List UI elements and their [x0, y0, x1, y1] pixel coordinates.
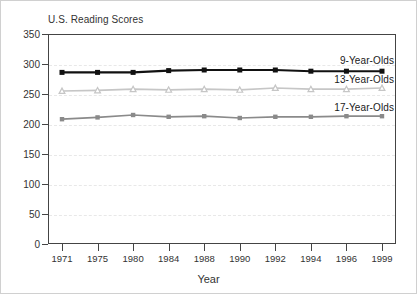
y-axis-tick: [42, 184, 48, 185]
y-axis-label: 50: [6, 209, 40, 220]
y-axis-label: 0: [6, 239, 40, 250]
x-axis-label: 1994: [300, 253, 321, 264]
gridline: [49, 215, 395, 216]
chart-container: U.S. Reading Scores 05010015020025030035…: [0, 0, 417, 294]
y-axis-tick: [42, 124, 48, 125]
x-axis-tick: [62, 244, 63, 251]
y-axis-label: 200: [6, 119, 40, 130]
chart-title: U.S. Reading Scores: [48, 14, 143, 25]
x-axis-label: 1984: [158, 253, 179, 264]
y-axis-tick: [42, 34, 48, 35]
x-axis-tick: [311, 244, 312, 251]
x-axis-title: Year: [1, 273, 416, 285]
x-axis-tick: [169, 244, 170, 251]
x-axis-tick: [275, 244, 276, 251]
x-axis-label: 1988: [194, 253, 215, 264]
gridline: [49, 95, 395, 96]
y-axis-tick: [42, 244, 48, 245]
gridline: [49, 125, 395, 126]
x-axis-tick: [240, 244, 241, 251]
gridlines: [49, 35, 395, 243]
y-axis-label: 100: [6, 179, 40, 190]
y-axis-tick: [42, 154, 48, 155]
x-axis-tick: [346, 244, 347, 251]
gridline: [49, 185, 395, 186]
y-axis-label: 250: [6, 89, 40, 100]
x-axis-label: 1975: [87, 253, 108, 264]
y-axis-label: 350: [6, 29, 40, 40]
y-axis-tick: [42, 94, 48, 95]
x-axis-label: 1992: [265, 253, 286, 264]
x-axis-label: 1971: [51, 253, 72, 264]
y-axis-label: 150: [6, 149, 40, 160]
y-axis-label: 300: [6, 59, 40, 70]
x-axis-tick: [382, 244, 383, 251]
x-axis-label: 1990: [229, 253, 250, 264]
y-axis-tick: [42, 214, 48, 215]
x-axis-tick: [204, 244, 205, 251]
series-label-3: 17-Year-Olds: [334, 102, 394, 113]
y-axis-tick: [42, 64, 48, 65]
x-axis-label: 1996: [336, 253, 357, 264]
series-label-1: 9-Year-Olds: [340, 55, 394, 66]
x-axis-label: 1980: [123, 253, 144, 264]
series-label-2: 13-Year-Olds: [334, 74, 394, 85]
x-axis-tick: [98, 244, 99, 251]
x-axis-tick: [133, 244, 134, 251]
x-axis-label: 1999: [371, 253, 392, 264]
gridline: [49, 155, 395, 156]
